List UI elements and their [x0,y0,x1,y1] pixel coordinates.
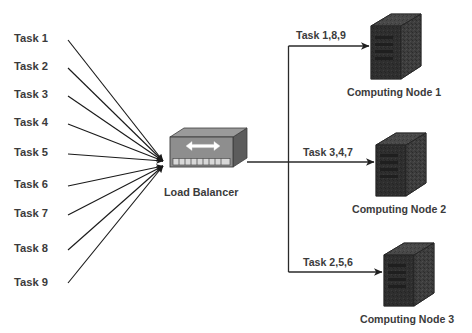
task-label-4: Task 4 [14,116,49,128]
computing-node-2-label: Computing Node 2 [352,203,446,215]
task-label-8: Task 8 [14,242,48,254]
task-line-2 [68,68,163,161]
computing-node-3-label: Computing Node 3 [360,313,454,325]
task-labels: Task 1 Task 2 Task 3 Task 4 Task 5 Task … [14,32,49,288]
switch-top-face [170,128,247,137]
task-label-6: Task 6 [14,178,48,190]
computing-node-2-icon [376,133,426,196]
flow-labels: Task 1,8,9 Task 3,4,7 Task 2,5,6 [296,29,353,268]
task-label-5: Task 5 [14,146,48,158]
task-label-2: Task 2 [14,60,48,72]
routing-lines [247,46,382,272]
flow-label-node-2: Task 3,4,7 [303,146,353,158]
flow-label-node-3: Task 2,5,6 [303,256,353,268]
load-balancer-diagram: Task 1 Task 2 Task 3 Task 4 Task 5 Task … [0,0,472,333]
diagram-canvas: Task 1 Task 2 Task 3 Task 4 Task 5 Task … [0,0,472,333]
switch-port-row [173,159,230,166]
task-label-7: Task 7 [14,207,48,219]
computing-node-3-icon [384,243,434,306]
task-label-1: Task 1 [14,32,48,44]
flow-label-node-1: Task 1,8,9 [296,29,346,41]
load-balancer-icon [170,128,247,167]
load-balancer-label: Load Balancer [164,186,239,198]
computing-node-1-label: Computing Node 1 [347,86,441,98]
task-label-3: Task 3 [14,88,48,100]
computing-node-1-icon [371,14,421,79]
task-label-9: Task 9 [14,276,48,288]
task-fan-in-lines [68,40,163,283]
task-line-3 [68,96,163,161]
